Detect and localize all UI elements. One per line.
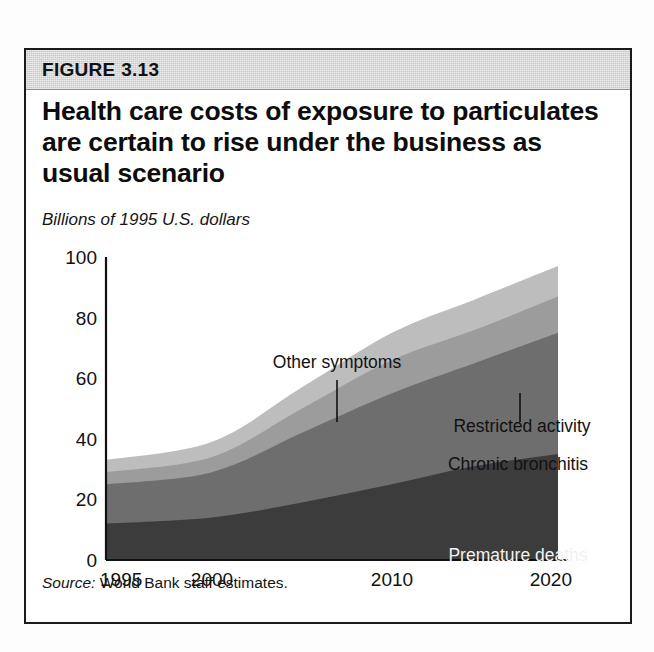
annotation-label-restricted-activity: Restricted activity [453, 416, 590, 436]
y-tick-label: 40 [76, 429, 97, 450]
y-tick-label: 0 [86, 550, 97, 571]
y-tick-label: 20 [76, 489, 97, 510]
figure-page: FIGURE 3.13 Health care costs of exposur… [0, 0, 654, 652]
x-tick-label: 2020 [530, 569, 572, 590]
y-tick-label: 80 [76, 308, 97, 329]
y-tick-label: 60 [76, 368, 97, 389]
figure-source-note: Source: World Bank staff estimates. [42, 574, 288, 592]
annotation-label-chronic-bronchitis: Chronic bronchitis [448, 454, 588, 474]
annotation-label-premature-deaths: Premature deaths [448, 545, 587, 565]
chart-canvas: 0204060801001995200020102020Other sympto… [26, 50, 630, 622]
stacked-area-chart: 0204060801001995200020102020Other sympto… [26, 50, 630, 622]
annotation-label-other-symptoms: Other symptoms [273, 352, 402, 372]
figure-panel: FIGURE 3.13 Health care costs of exposur… [24, 48, 632, 624]
x-tick-label: 2010 [371, 569, 413, 590]
source-word: Source: [42, 574, 95, 591]
source-text: World Bank staff estimates. [100, 574, 288, 591]
y-tick-label: 100 [65, 247, 97, 268]
